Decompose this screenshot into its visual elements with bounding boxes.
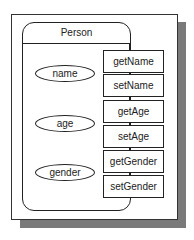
method-setage: setAge — [103, 125, 164, 148]
attribute-gender: gender — [35, 164, 95, 181]
attribute-age: age — [35, 115, 95, 132]
method-getname: getName — [103, 50, 164, 73]
method-getage: getAge — [103, 100, 164, 123]
attribute-name: name — [35, 65, 95, 82]
class-title: Person — [23, 23, 130, 44]
method-setgender: setGender — [103, 175, 164, 198]
method-getgender: getGender — [103, 150, 164, 173]
method-setname: setName — [103, 74, 164, 97]
